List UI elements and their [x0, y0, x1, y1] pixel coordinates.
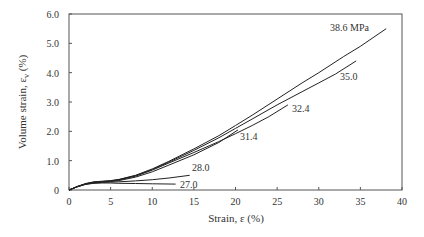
plot-frame	[69, 14, 402, 190]
y-tick-label: 6.0	[47, 9, 60, 20]
volume-strain-chart: 0510152025303540 01.02.03.04.05.06.0 38.…	[0, 0, 424, 237]
x-tick-label: 25	[272, 196, 282, 207]
y-axis-label: Volume strain, εv (%)	[16, 54, 31, 149]
series-label: 38.6 MPa	[330, 22, 369, 33]
y-tick-label: 4.0	[47, 68, 60, 79]
x-tick-label: 10	[147, 196, 157, 207]
y-tick-label: 2.0	[47, 126, 60, 137]
x-tick-label: 30	[314, 196, 324, 207]
data-series	[69, 29, 386, 190]
x-tick-label: 20	[231, 196, 241, 207]
series-label: 32.4	[292, 103, 310, 114]
series-label: 28.0	[192, 162, 210, 173]
y-axis-ticks: 01.02.03.04.05.06.0	[47, 9, 73, 196]
y-tick-label: 0	[54, 185, 59, 196]
y-tick-label: 1.0	[47, 156, 60, 167]
x-axis-label: Strain, ε (%)	[208, 212, 264, 225]
series-label: 27.0	[180, 179, 198, 190]
x-tick-label: 35	[355, 196, 365, 207]
series-label: 31.4	[240, 131, 258, 142]
y-tick-label: 5.0	[47, 38, 60, 49]
x-tick-label: 0	[67, 196, 72, 207]
x-tick-label: 40	[397, 196, 407, 207]
series-line	[69, 29, 386, 190]
series-label: 35.0	[340, 71, 358, 82]
series-line	[69, 61, 356, 190]
x-tick-label: 15	[189, 196, 199, 207]
y-tick-label: 3.0	[47, 97, 60, 108]
x-tick-label: 5	[108, 196, 113, 207]
